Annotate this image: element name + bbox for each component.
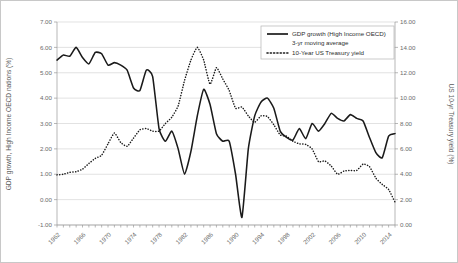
x-axis-tick-labels: 1962196619701974197819821986199019941998… bbox=[47, 230, 394, 245]
y2-axis-title: US 10-yr Treasury yield (%) bbox=[447, 84, 455, 165]
y-tick-label: 3.00 bbox=[40, 120, 53, 127]
x-tick-label: 2010 bbox=[353, 230, 368, 245]
x-tick-label: 1970 bbox=[98, 230, 113, 245]
y-tick-label: 2.00 bbox=[40, 145, 53, 152]
y-axis-tickmarks bbox=[54, 22, 57, 225]
y2-tick-label: 16.00 bbox=[400, 18, 416, 25]
series-path-2 bbox=[57, 47, 395, 202]
y2-tick-label: 0.00 bbox=[400, 221, 413, 228]
y2-tick-label: 10.00 bbox=[400, 94, 416, 101]
x-tick-label: 1994 bbox=[251, 230, 266, 245]
x-tick-label: 2002 bbox=[302, 230, 317, 245]
x-tick-label: 1998 bbox=[276, 230, 291, 245]
y2-tick-label: 4.00 bbox=[400, 170, 413, 177]
y2-tick-label: 12.00 bbox=[400, 69, 416, 76]
y2-axis-tickmarks bbox=[395, 22, 398, 225]
y2-tick-label: 2.00 bbox=[400, 196, 413, 203]
y-tick-label: 0.00 bbox=[40, 196, 53, 203]
x-tick-label: 1986 bbox=[200, 230, 215, 245]
y-tick-label: 6.00 bbox=[40, 44, 53, 51]
x-tick-label: 1990 bbox=[225, 230, 240, 245]
y2-tick-label: 8.00 bbox=[400, 120, 413, 127]
y-axis-tick-labels: -1.000.001.002.003.004.005.006.007.00 bbox=[38, 18, 53, 228]
x-tick-label: 2006 bbox=[327, 230, 342, 245]
x-tick-label: 1982 bbox=[174, 230, 189, 245]
y-tick-label: 1.00 bbox=[40, 170, 53, 177]
legend-label-1-line2: 3-yr moving average bbox=[292, 39, 349, 46]
x-tick-label: 1974 bbox=[123, 230, 138, 245]
x-tick-label: 1962 bbox=[47, 230, 62, 245]
y2-tick-label: 6.00 bbox=[400, 145, 413, 152]
y-tick-label: -1.00 bbox=[38, 221, 53, 228]
x-tick-label: 1978 bbox=[149, 230, 164, 245]
chart-figure: -1.000.001.002.003.004.005.006.007.00 0.… bbox=[0, 0, 458, 263]
y2-tick-label: 14.00 bbox=[400, 44, 416, 51]
y2-axis-tick-labels: 0.002.004.006.008.0010.0012.0014.0016.00 bbox=[400, 18, 416, 228]
x-axis-tickmarks bbox=[57, 225, 395, 228]
legend-label-1-line1: GDP growth (High Income OECD) bbox=[292, 30, 386, 37]
chart-legend: GDP growth (High Income OECD)3-yr moving… bbox=[261, 26, 394, 59]
legend-label-2-line1: 10-Year US Treasury yield bbox=[292, 49, 365, 56]
y-tick-label: 5.00 bbox=[40, 69, 53, 76]
x-tick-label: 1966 bbox=[72, 230, 87, 245]
x-tick-label: 2014 bbox=[378, 230, 393, 245]
dual-axis-line-chart: -1.000.001.002.003.004.005.006.007.00 0.… bbox=[0, 0, 458, 263]
y-axis-title: GDP growth, High Income OECD nations (%) bbox=[5, 58, 13, 191]
y-tick-label: 4.00 bbox=[40, 94, 53, 101]
y-tick-label: 7.00 bbox=[40, 18, 53, 25]
